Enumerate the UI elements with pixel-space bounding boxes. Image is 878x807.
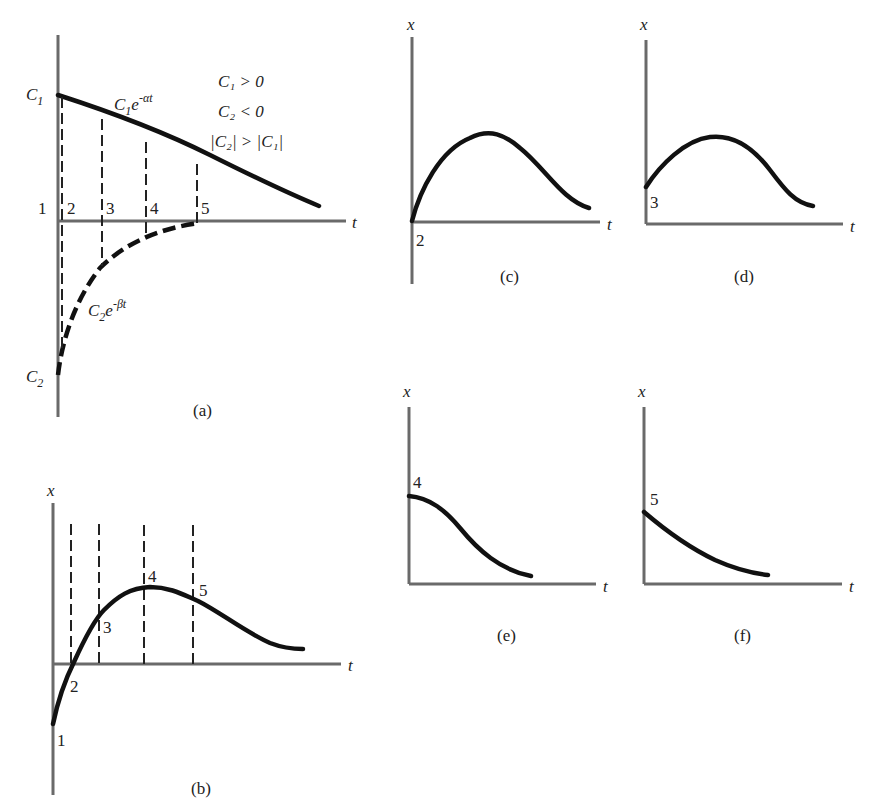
panel-d-start-label: 3: [650, 193, 659, 212]
panel-d-caption: (d): [734, 267, 754, 286]
panel-f-caption: (f): [734, 626, 751, 645]
panel-a-point-1: 1: [38, 199, 47, 218]
panel-a-curve2-label: C2e-βt: [88, 297, 127, 324]
panel-a-t-label: t: [352, 213, 358, 232]
panel-a-point-4: 4: [150, 199, 159, 218]
curve-c2-exp-beta: [58, 223, 200, 375]
panel-a-point-3: 3: [106, 199, 115, 218]
panel-c: x t 2 (c): [406, 15, 613, 286]
panel-b-point-2: 2: [70, 677, 79, 696]
panel-a-condition-1: C₁ > 0: [218, 72, 264, 91]
panel-e-caption: (e): [497, 626, 516, 645]
panel-b-t-label: t: [348, 656, 354, 675]
panel-a-c1-label: C1: [26, 85, 43, 108]
panel-f-t-label: t: [849, 577, 855, 596]
panel-b: x t 1 2 3 4 5 (b): [46, 481, 354, 798]
panel-d: x t 3 (d): [639, 15, 856, 286]
panel-c-x-label: x: [406, 15, 415, 34]
panel-c-t-label: t: [607, 215, 613, 234]
panel-a-condition-2: C₂ < 0: [218, 102, 264, 121]
panel-e-x-label: x: [402, 382, 411, 401]
panel-d-x-label: x: [639, 15, 648, 34]
panel-a-c2-label: C2: [26, 367, 43, 390]
panel-c-caption: (c): [500, 267, 519, 286]
panel-e-x-curve: [409, 496, 531, 576]
panel-f: x t 5 (f): [637, 382, 855, 645]
panel-b-x-curve: [53, 587, 303, 724]
panel-c-start-label: 2: [416, 231, 425, 250]
panel-d-x-curve: [646, 137, 813, 206]
figure-canvas: t 1 2 3 4 5 C1 C2 C1e-αt C2e-βt C₁ > 0 C…: [0, 0, 878, 807]
panel-a-point-2: 2: [67, 199, 76, 218]
panel-b-point-4: 4: [148, 567, 157, 586]
panel-d-t-label: t: [850, 217, 856, 236]
panel-a-caption: (a): [193, 401, 212, 420]
panel-e: x t 4 (e): [402, 382, 609, 645]
panel-b-caption: (b): [191, 779, 211, 798]
panel-f-x-curve: [644, 512, 768, 575]
panel-c-x-curve: [412, 133, 589, 221]
panel-b-point-5: 5: [199, 581, 208, 600]
panel-b-point-3: 3: [103, 618, 112, 637]
panel-e-start-label: 4: [413, 473, 422, 492]
panel-a-condition-3: |C₂| > |C₁|: [210, 132, 283, 151]
panel-b-x-label: x: [46, 481, 55, 500]
panel-a-curve1-label: C1e-αt: [114, 91, 153, 118]
panel-b-point-1: 1: [57, 731, 66, 750]
panel-a-point-5: 5: [201, 199, 210, 218]
panel-f-x-label: x: [637, 382, 646, 401]
panel-e-t-label: t: [603, 577, 609, 596]
panel-f-start-label: 5: [650, 490, 659, 509]
panel-a: t 1 2 3 4 5 C1 C2 C1e-αt C2e-βt C₁ > 0 C…: [26, 35, 358, 420]
